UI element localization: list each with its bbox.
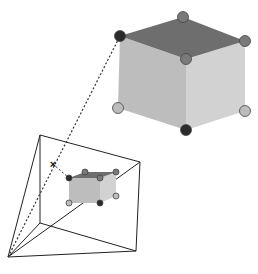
vertex-marker-bottom-right <box>240 106 251 117</box>
vertex-marker-top-front <box>181 54 192 65</box>
vertex-marker-top-front <box>97 175 103 181</box>
frustum-projection-diagram: × <box>0 0 258 274</box>
vertex-marker-bottom-front <box>97 200 103 206</box>
vertex-marker-top-right <box>113 169 119 175</box>
vertex-marker-bottom-left <box>66 200 72 206</box>
projected-cube-left-face <box>69 178 100 203</box>
vertex-marker-bottom-right <box>113 193 119 199</box>
vertex-marker-bottom-front <box>181 125 192 136</box>
vertex-marker-top-back <box>178 12 189 23</box>
intersection-mark: × <box>50 158 56 170</box>
vertex-marker-bottom-left <box>113 103 124 114</box>
vertex-marker-top-right <box>240 36 251 47</box>
vertex-marker-top-back <box>82 169 88 175</box>
